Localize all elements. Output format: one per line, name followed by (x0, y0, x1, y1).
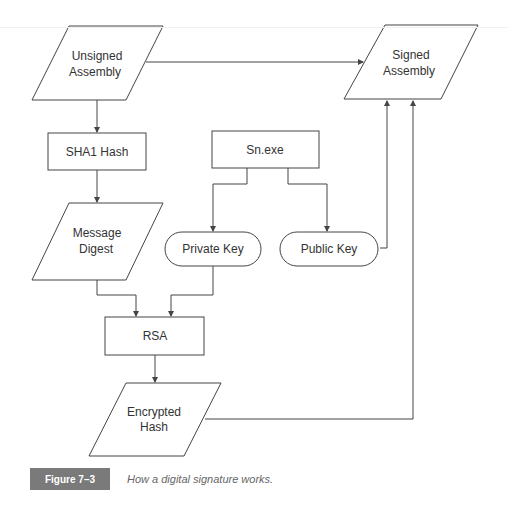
node-label: Hash (140, 420, 168, 434)
node-rsa: RSA (105, 317, 204, 355)
node-label: Assembly (69, 65, 121, 79)
node-label: Digest (79, 242, 114, 256)
node-message-digest: Message Digest (32, 203, 163, 280)
edge-snexe-to-private (213, 168, 247, 231)
node-private-key: Private Key (165, 232, 261, 266)
node-label: Public Key (301, 242, 358, 256)
node-sn-exe: Sn.exe (212, 131, 319, 168)
node-label: RSA (143, 329, 168, 343)
node-unsigned-assembly: Unsigned Assembly (32, 26, 163, 100)
figure-number-badge: Figure 7–3 (30, 468, 110, 490)
node-public-key: Public Key (280, 232, 378, 266)
node-sha1-hash: SHA1 Hash (48, 133, 146, 170)
node-label: Signed (392, 48, 429, 62)
edge-snexe-to-public (288, 168, 327, 231)
node-label: Assembly (383, 64, 435, 78)
node-label: Sn.exe (246, 143, 284, 157)
node-label: Encrypted (127, 405, 181, 419)
node-label: Message (73, 226, 122, 240)
node-signed-assembly: Signed Assembly (344, 25, 478, 99)
figure: Unsigned Assembly Signed Assembly SHA1 H… (0, 0, 507, 514)
figure-caption-text: How a digital signature works. (127, 473, 273, 485)
edge-private-to-rsa (171, 266, 213, 316)
node-encrypted-hash: Encrypted Hash (89, 383, 221, 456)
node-label: Private Key (182, 242, 243, 256)
page-rule (0, 27, 507, 28)
flowchart: Unsigned Assembly Signed Assembly SHA1 H… (0, 0, 507, 514)
figure-caption: Figure 7–3 How a digital signature works… (30, 468, 273, 490)
node-label: SHA1 Hash (66, 145, 129, 159)
edge-public-to-signed (380, 101, 387, 248)
edge-digest-to-rsa (97, 280, 136, 316)
node-label: Unsigned (72, 49, 123, 63)
